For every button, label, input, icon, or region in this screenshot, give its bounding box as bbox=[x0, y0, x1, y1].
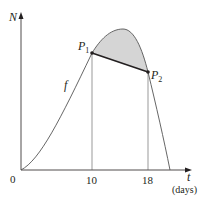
diagram: N f P1 P2 0 10 18 t (days) bbox=[0, 0, 202, 199]
y-axis-label: N bbox=[8, 10, 18, 24]
x-axis-label: t bbox=[187, 170, 191, 184]
shaded-region bbox=[92, 29, 148, 72]
point-p1-label: P1 bbox=[77, 39, 89, 55]
point-p1 bbox=[90, 51, 94, 55]
curve-label: f bbox=[64, 78, 69, 92]
x-tick-10: 10 bbox=[86, 174, 98, 186]
y-axis-arrow-icon bbox=[19, 12, 24, 19]
x-axis-unit-label: (days) bbox=[172, 184, 197, 196]
point-p2-label: P2 bbox=[150, 68, 162, 84]
point-p2 bbox=[146, 70, 150, 74]
x-tick-18: 18 bbox=[142, 174, 154, 186]
origin-label: 0 bbox=[10, 173, 16, 185]
